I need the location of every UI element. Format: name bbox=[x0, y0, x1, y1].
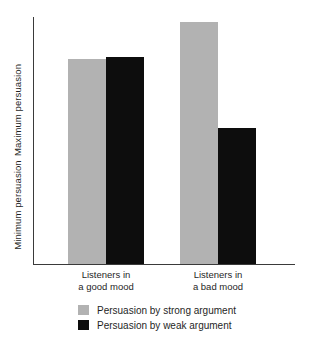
category-label-good-mood: Listeners in a good mood bbox=[46, 269, 166, 293]
legend-label-weak: Persuasion by weak argument bbox=[97, 320, 232, 331]
legend-swatch-weak bbox=[78, 320, 89, 330]
legend-label-strong: Persuasion by strong argument bbox=[97, 305, 236, 316]
y-axis-line bbox=[33, 17, 34, 265]
x-axis-line bbox=[33, 264, 295, 265]
bar-bad-strong bbox=[180, 22, 218, 264]
legend-swatch-strong bbox=[78, 305, 89, 315]
bar-good-weak bbox=[106, 57, 144, 264]
bar-chart: Maximum persuasion Minimum persuasion Li… bbox=[0, 0, 311, 344]
bar-bad-weak bbox=[218, 128, 256, 264]
chart-legend: Persuasion by strong argument Persuasion… bbox=[78, 303, 236, 333]
y-axis-label-minimum: Minimum persuasion bbox=[12, 110, 23, 300]
legend-item-strong: Persuasion by strong argument bbox=[78, 303, 236, 317]
category-label-bad-mood: Listeners in a bad mood bbox=[158, 269, 278, 293]
bar-good-strong bbox=[68, 59, 106, 264]
legend-item-weak: Persuasion by weak argument bbox=[78, 318, 236, 332]
